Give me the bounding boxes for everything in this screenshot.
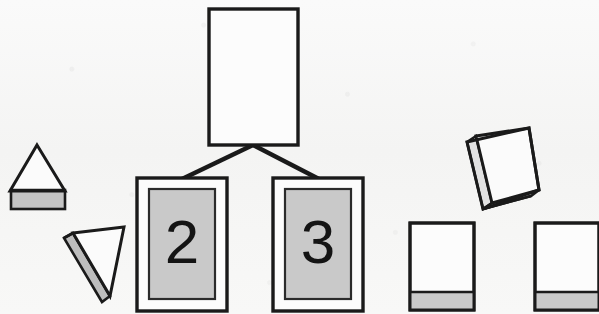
flat-box-left-gray-band [410, 292, 474, 310]
card-2-digit: 2 [165, 207, 199, 276]
figure-canvas: 2 3 [0, 0, 599, 314]
connector-left-line [182, 145, 253, 179]
card-2: 2 [137, 178, 227, 311]
card-3-digit: 3 [301, 207, 335, 276]
flat-box-left [410, 223, 474, 310]
flat-box-right [535, 223, 599, 310]
root-rectangle-outline [209, 9, 298, 145]
upright-prism-base-slab [11, 190, 65, 209]
root-rectangle [209, 9, 298, 145]
connector-right-line [253, 145, 319, 179]
tilted-box [467, 128, 539, 209]
flat-box-right-gray-band [535, 292, 599, 310]
upright-triangular-prism [10, 145, 65, 209]
tree-connectors [182, 145, 319, 179]
upright-prism-triangle-face [10, 145, 65, 191]
tilted-triangular-wedge [64, 227, 124, 302]
geometric-shapes-diagram: 2 3 [0, 0, 599, 314]
card-3: 3 [273, 178, 363, 311]
